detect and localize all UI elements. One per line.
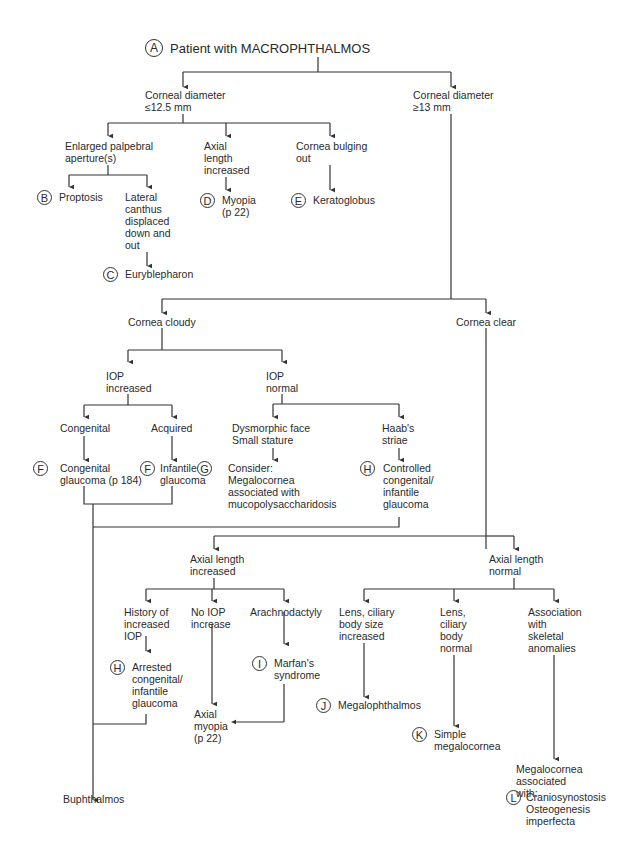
node-axial-top: Axial length increased [204, 140, 250, 176]
badge-l: L [506, 790, 521, 805]
node-buphthalmos: Buphthalmos [63, 793, 124, 805]
node-cornea-bulging: Cornea bulging out [296, 140, 367, 164]
node-no-iop: No IOP increase [191, 606, 231, 630]
badge-b: B [37, 190, 52, 205]
node-lens-normal: Lens, ciliary body normal [440, 606, 472, 654]
badge-g: G [197, 461, 212, 476]
node-consider-mps: Consider: Megalocornea associated with m… [228, 462, 337, 510]
badge-h-arrested: H [110, 660, 125, 675]
node-congenital: Congenital [60, 422, 110, 434]
node-history-iop: History of increased IOP [124, 606, 170, 642]
node-congenital-glaucoma: Congenital glaucoma (p 184) [60, 462, 142, 486]
node-axial-normal: Axial length normal [489, 553, 543, 577]
node-skeletal-list: Craniosynostosis Osteogenesis imperfecta [526, 791, 606, 827]
node-megalophthalmos: Megalophthalmos [338, 699, 421, 711]
node-myopia: Myopia (p 22) [222, 194, 256, 218]
root-node: Patient with MACROPHTHALMOS [170, 41, 370, 56]
node-arrested-glaucoma: Arrested congenital/ infantile glaucoma [132, 661, 183, 709]
node-lens-increased: Lens, ciliary body size increased [339, 606, 394, 642]
node-enlarged-palpebral: Enlarged palpebral aperture(s) [65, 140, 153, 164]
node-dysmorphic: Dysmorphic face Small stature [232, 422, 310, 446]
badge-d: D [200, 193, 215, 208]
node-controlled-glaucoma: Controlled congenital/ infantile glaucom… [383, 462, 434, 510]
node-cornea-cloudy: Cornea cloudy [128, 316, 196, 328]
node-axial-increased: Axial length increased [190, 553, 244, 577]
node-arachnodactyly: Arachnodactyly [250, 606, 322, 618]
badge-c: C [103, 267, 118, 282]
node-simple-megalocornea: Simple megalocornea [434, 728, 501, 752]
badge-h-controlled: H [360, 461, 375, 476]
node-axial-myopia: Axial myopia (p 22) [194, 708, 228, 744]
node-iop-increased: IOP increased [106, 370, 152, 394]
node-corneal-large: Corneal diameter ≥13 mm [413, 89, 494, 113]
badge-i: I [252, 656, 267, 671]
node-cornea-clear: Cornea clear [456, 316, 516, 328]
node-lateral-canthus: Lateral canthus displaced down and out [125, 191, 171, 251]
badge-e: E [291, 193, 306, 208]
node-marfans: Marfan's syndrome [274, 657, 320, 681]
badge-f-infantile: F [140, 461, 155, 476]
node-keratoglobus: Keratoglobus [313, 194, 375, 206]
badge-j: J [316, 698, 331, 713]
node-iop-normal: IOP normal [266, 370, 298, 394]
node-haabs: Haab's striae [382, 422, 414, 446]
badge-f-congenital: F [33, 461, 48, 476]
node-euryblepharon: Euryblepharon [125, 268, 193, 280]
node-proptosis: Proptosis [59, 191, 103, 203]
badge-k: K [412, 727, 427, 742]
node-skeletal: Association with skeletal anomalies [528, 606, 582, 654]
node-corneal-small: Corneal diameter ≤12.5 mm [145, 89, 226, 113]
node-acquired: Acquired [151, 422, 192, 434]
badge-a: A [145, 39, 163, 57]
